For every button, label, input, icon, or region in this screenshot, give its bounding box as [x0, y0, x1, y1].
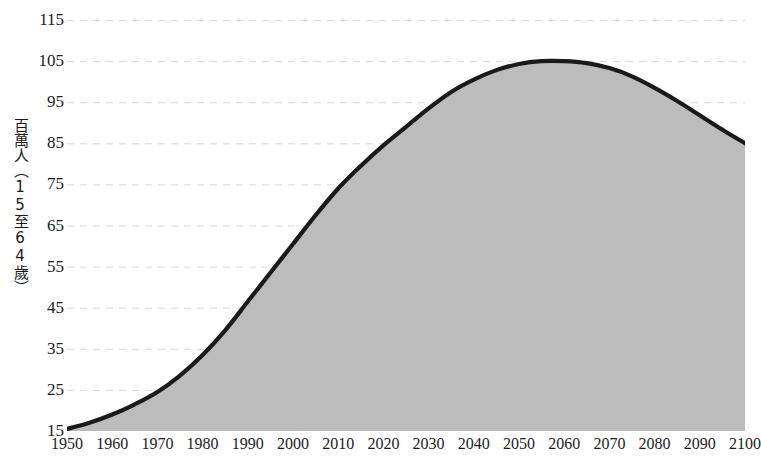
x-tick-label: 2080: [639, 435, 671, 453]
y-tick-label: 85: [8, 134, 64, 151]
x-tick-label: 1960: [96, 435, 128, 453]
y-axis-tick-labels: 115105958575655545352515: [0, 0, 64, 460]
x-tick-label: 2100: [729, 435, 761, 453]
x-tick-label: 1970: [141, 435, 173, 453]
x-tick-label: 1950: [51, 435, 83, 453]
x-tick-label: 2010: [322, 435, 354, 453]
y-tick-label: 35: [8, 340, 64, 357]
y-tick-label: 25: [8, 381, 64, 398]
y-tick-label: 65: [8, 217, 64, 234]
x-tick-label: 2060: [548, 435, 580, 453]
x-tick-label: 2040: [458, 435, 490, 453]
x-tick-label: 2090: [684, 435, 716, 453]
series-area-fill: [67, 61, 745, 431]
x-tick-label: 1990: [232, 435, 264, 453]
x-axis-tick-labels: 1950196019701980199020002010202020302040…: [0, 435, 757, 460]
x-tick-label: 2030: [413, 435, 445, 453]
y-tick-label: 115: [8, 11, 64, 28]
y-tick-label: 75: [8, 175, 64, 192]
x-tick-label: 2000: [277, 435, 309, 453]
x-tick-label: 2050: [503, 435, 535, 453]
y-tick-label: 105: [8, 52, 64, 69]
x-tick-label: 2020: [367, 435, 399, 453]
y-tick-label: 45: [8, 299, 64, 316]
x-tick-label: 1980: [187, 435, 219, 453]
x-tick-label: 2070: [593, 435, 625, 453]
plot-area: [67, 20, 745, 431]
y-tick-label: 55: [8, 258, 64, 275]
y-tick-label: 95: [8, 93, 64, 110]
area-chart-svg: [67, 20, 745, 431]
